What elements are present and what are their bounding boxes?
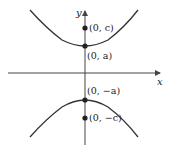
vertex-bottom-label: (0, −a) bbox=[87, 85, 120, 96]
x-axis-label: x bbox=[157, 76, 163, 87]
focus-bottom-point bbox=[82, 115, 87, 120]
vertex-bottom-point bbox=[82, 97, 87, 102]
focus-bottom-label: (0, −c) bbox=[89, 112, 122, 123]
hyperbola-diagram: x y (0, c) (0, a) (0, −a) (0, −c) bbox=[0, 0, 169, 148]
focus-top-point bbox=[82, 25, 87, 30]
y-axis-label: y bbox=[75, 7, 82, 18]
focus-top-label: (0, c) bbox=[89, 22, 114, 33]
vertex-top-point bbox=[82, 43, 87, 48]
vertex-top-label: (0, a) bbox=[87, 50, 112, 61]
